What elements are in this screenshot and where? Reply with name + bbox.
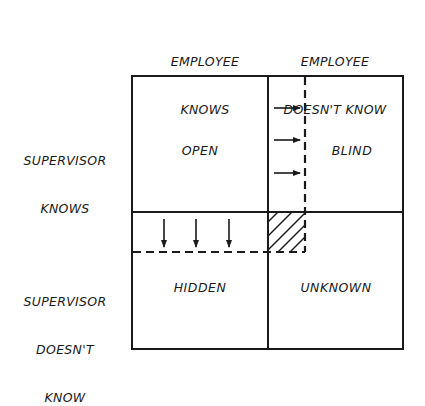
right-arrows xyxy=(274,108,300,173)
row-header-line3: KNOW xyxy=(10,390,120,406)
quadrant-unknown-label: UNKNOWN xyxy=(300,280,371,295)
hatched-overlap-area xyxy=(258,200,316,256)
down-arrows xyxy=(164,219,229,247)
quadrant-blind-label: BLIND xyxy=(332,143,373,158)
quadrant-open-label: OPEN xyxy=(182,143,219,158)
quadrant-hidden-label: HIDDEN xyxy=(174,280,227,295)
